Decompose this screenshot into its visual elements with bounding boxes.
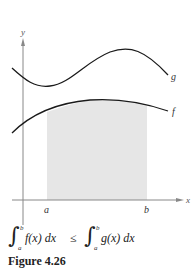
curve-label-g: g: [171, 71, 176, 82]
y-axis-arrow-icon: [21, 38, 25, 46]
integral-inequality: ∫ b a f(x) dx ≤ ∫ b a g(x) dx: [8, 228, 178, 250]
x-axis-arrow-icon: [176, 198, 184, 202]
right-lower-limit: a: [94, 244, 98, 252]
shaded-area-under-f: [47, 100, 147, 200]
right-integrand: g(x) dx: [101, 231, 135, 246]
left-integrand: f(x) dx: [25, 231, 56, 246]
curve-label-f: f: [172, 106, 176, 117]
curve-g: [12, 49, 168, 86]
x-axis-label: x: [185, 195, 190, 205]
right-upper-limit: b: [96, 224, 100, 232]
y-axis-label: y: [20, 27, 25, 37]
inequality-sign: ≤: [70, 231, 77, 246]
left-lower-limit: a: [18, 244, 22, 252]
left-upper-limit: b: [20, 224, 24, 232]
integral-comparison-diagram: y x a b g f: [0, 0, 196, 225]
figure-caption: Figure 4.26: [8, 254, 66, 269]
bound-label-a: a: [44, 204, 49, 215]
bound-label-b: b: [144, 204, 149, 215]
